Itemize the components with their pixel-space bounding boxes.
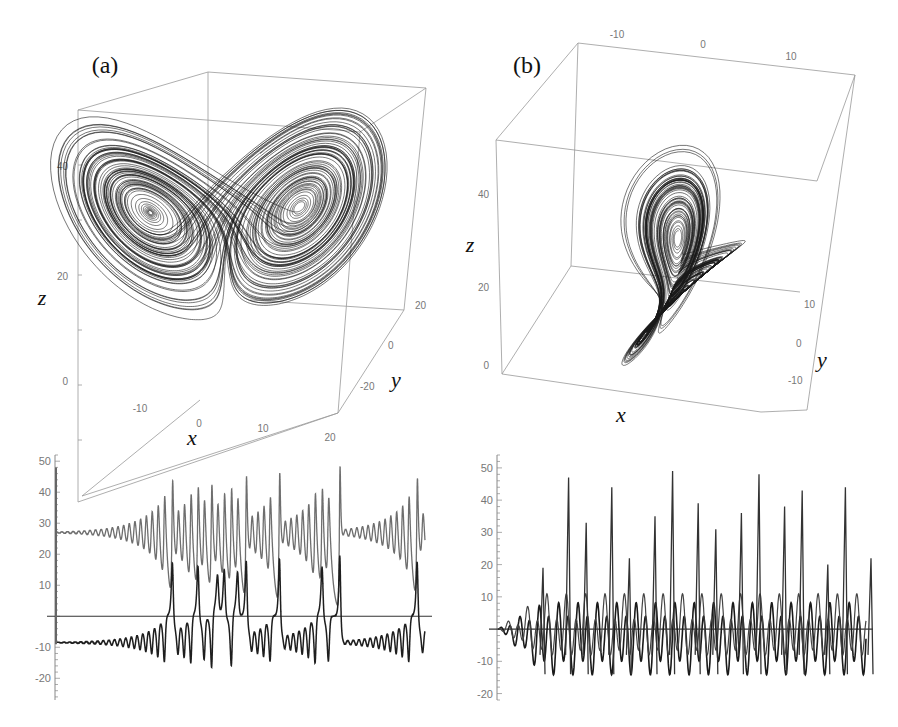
z-tick-label: 20 bbox=[57, 271, 69, 282]
y-tick-label: 50 bbox=[39, 455, 51, 467]
attractor-trajectory bbox=[51, 108, 387, 320]
x-tick-label: -10 bbox=[610, 29, 625, 40]
box-edge bbox=[502, 266, 571, 374]
y-tick-label: 20 bbox=[481, 559, 493, 571]
y-tick-label: 10 bbox=[804, 299, 816, 310]
box-edge bbox=[404, 88, 426, 310]
x-tick-label: -10 bbox=[133, 403, 148, 414]
x-tick-label: 0 bbox=[196, 418, 202, 429]
y-tick-label: 20 bbox=[39, 548, 51, 560]
box-edge bbox=[761, 410, 807, 412]
panel-b-timeseries: -20-101020304050 bbox=[477, 455, 873, 700]
y-tick-label: -10 bbox=[477, 655, 493, 667]
series-upper bbox=[57, 467, 425, 605]
box-edge bbox=[578, 43, 855, 75]
x-tick-label: 0 bbox=[700, 39, 706, 50]
box-edge bbox=[82, 413, 338, 496]
y-tick-label: -20 bbox=[477, 688, 493, 700]
panel-b-attractor: -1001002040zx-10010y(b) bbox=[465, 29, 855, 427]
x-tick-label: 10 bbox=[257, 423, 269, 434]
y-tick-label: 10 bbox=[39, 579, 51, 591]
box-edge bbox=[817, 75, 855, 181]
box-edge bbox=[78, 413, 338, 502]
box-edge bbox=[208, 72, 426, 88]
z-axis-label: z bbox=[465, 232, 475, 257]
y-tick-label: 30 bbox=[481, 526, 493, 538]
box-edge bbox=[571, 43, 578, 266]
y-tick-label: -20 bbox=[35, 672, 51, 684]
panel-label-b: (b) bbox=[513, 52, 541, 78]
y-tick-label: 20 bbox=[415, 300, 427, 311]
box-edge bbox=[338, 310, 404, 413]
box-edge bbox=[807, 75, 855, 410]
z-tick-label: 20 bbox=[478, 282, 490, 293]
y-tick-label: 0 bbox=[388, 340, 394, 351]
panel-a-attractor: 02040z-1001020x-20020y(a) bbox=[37, 52, 427, 502]
y-tick-label: -10 bbox=[35, 641, 51, 653]
y-tick-label: 10 bbox=[481, 591, 493, 603]
y-axis-label: y bbox=[389, 367, 401, 392]
x-tick-label: 10 bbox=[785, 51, 797, 62]
z-tick-label: 0 bbox=[483, 360, 489, 371]
z-tick-label: 0 bbox=[62, 376, 68, 387]
y-tick-label: 40 bbox=[39, 486, 51, 498]
y-tick-label: 0 bbox=[796, 338, 802, 349]
y-tick-label: -20 bbox=[360, 381, 375, 392]
spike bbox=[868, 558, 873, 674]
panel-label-a: (a) bbox=[92, 52, 119, 78]
box-edge bbox=[496, 140, 502, 374]
spike bbox=[566, 478, 571, 675]
box-edge bbox=[502, 374, 761, 412]
y-tick-label: 30 bbox=[39, 517, 51, 529]
y-tick-label: 40 bbox=[481, 494, 493, 506]
z-axis-label: z bbox=[37, 285, 47, 310]
spike bbox=[842, 487, 847, 674]
spike bbox=[799, 490, 804, 674]
y-tick-label: 50 bbox=[481, 462, 493, 474]
y-tick-label: -10 bbox=[788, 375, 803, 386]
spike bbox=[540, 568, 545, 674]
figure: 02040z-1001020x-20020y(a) -1001002040zx-… bbox=[0, 0, 898, 727]
z-tick-label: 40 bbox=[478, 189, 490, 200]
x-tick-label: 20 bbox=[324, 432, 336, 443]
y-axis-label: y bbox=[815, 347, 827, 372]
spike bbox=[713, 529, 718, 674]
attractor-trajectory bbox=[621, 145, 745, 365]
x-axis-label: x bbox=[615, 402, 626, 427]
x-axis-label: x bbox=[186, 425, 197, 450]
box-edge bbox=[360, 88, 426, 132]
box-edge bbox=[82, 400, 200, 496]
